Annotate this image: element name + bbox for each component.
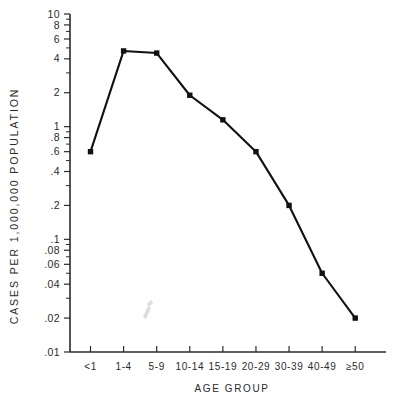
y-tick-label: 8 <box>54 19 60 31</box>
y-tick-label: .4 <box>50 165 60 177</box>
x-tick-label: ≥50 <box>346 361 364 372</box>
x-axis-tick-labels: <11-45-910-1415-1920-2930-3940-49≥50 <box>84 361 364 372</box>
data-point-marker <box>286 203 291 208</box>
data-point-marker <box>121 48 126 53</box>
data-point-marker <box>253 149 258 154</box>
data-point-marker <box>187 93 192 98</box>
y-axis-title: CASES PER 1,000,000 POPULATION <box>8 88 20 325</box>
y-tick-label: .8 <box>50 131 60 143</box>
data-point-marker <box>88 149 93 154</box>
data-point-marker <box>353 315 358 320</box>
x-tick-label: <1 <box>84 361 97 372</box>
x-tick-label: 5-9 <box>149 361 165 372</box>
x-tick-label: 30-39 <box>275 361 304 372</box>
y-tick-label: .6 <box>50 145 60 157</box>
y-tick-label: .01 <box>44 346 60 358</box>
x-axis-title: AGE GROUP <box>195 383 270 394</box>
y-tick-label: .04 <box>44 278 60 290</box>
data-point-marker <box>220 117 225 122</box>
data-point-marker <box>154 50 159 55</box>
data-point-marker <box>319 271 324 276</box>
x-tick-label: 40-49 <box>308 361 337 372</box>
y-tick-label: 2 <box>54 86 60 98</box>
y-tick-label: .02 <box>44 312 60 324</box>
line-chart: 1086421.8.6.4.2.1.08.06.04.02.01 <11-45-… <box>0 0 398 408</box>
chart-figure: 1086421.8.6.4.2.1.08.06.04.02.01 <11-45-… <box>0 0 398 408</box>
x-tick-label: 10-14 <box>175 361 204 372</box>
x-tick-label: 1-4 <box>115 361 131 372</box>
y-tick-label: 4 <box>54 52 60 64</box>
y-tick-label: .06 <box>44 258 60 270</box>
x-tick-label: 20-29 <box>242 361 271 372</box>
y-tick-label: 6 <box>54 33 60 45</box>
x-tick-label: 15-19 <box>209 361 238 372</box>
y-tick-label: .08 <box>44 244 60 256</box>
y-tick-label: .2 <box>50 199 60 211</box>
